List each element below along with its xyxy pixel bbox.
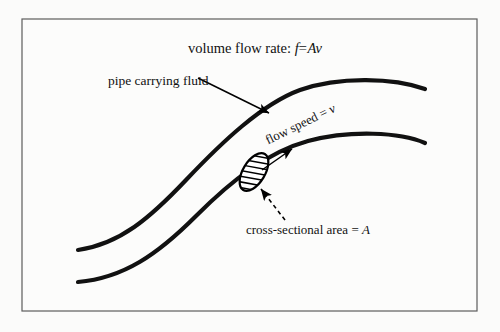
symbol-A-area: A (362, 222, 370, 237)
cross-sectional-area-label: cross-sectional area = A (246, 223, 370, 236)
area-equals: = (351, 222, 358, 237)
symbol-v-title: v (316, 40, 322, 56)
volume-flow-rate-prefix: volume flow rate: (188, 40, 291, 56)
area-prefix: cross-sectional area (246, 222, 348, 237)
volume-flow-rate-label: volume flow rate: f=Av (188, 41, 322, 56)
symbol-A-title: A (307, 40, 315, 56)
pipe-carrying-fluid-label: pipe carrying fluid (108, 74, 208, 88)
figure-canvas: volume flow rate: f=Av pipe carrying flu… (0, 0, 500, 332)
